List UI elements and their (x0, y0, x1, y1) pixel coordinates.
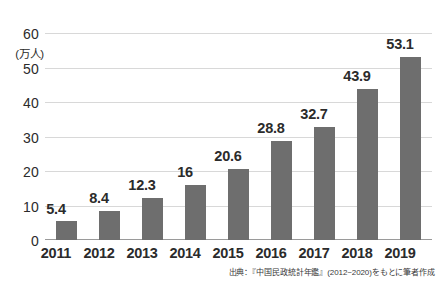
bar-2013 (142, 198, 163, 240)
bar-value-2018: 43.9 (329, 68, 385, 84)
y-tick-label-30: 30 (5, 130, 39, 146)
bar-2016 (271, 141, 292, 240)
bar-2019 (400, 57, 421, 240)
bar-2011 (56, 221, 77, 240)
bar-2017 (314, 127, 335, 240)
bar-2012 (99, 211, 120, 240)
bar-value-2016: 28.8 (243, 120, 299, 136)
gridline-60 (45, 33, 432, 34)
source-note: 出典：『中国民政統計年鑑』(2012~2020)をもとに筆者作成 (229, 266, 435, 277)
bar-value-2014: 16 (157, 164, 213, 180)
bar-2014 (185, 185, 206, 240)
bar-value-2015: 20.6 (200, 148, 256, 164)
y-tick-label-40: 40 (5, 95, 39, 111)
bar-value-2019: 53.1 (372, 36, 428, 52)
y-tick-label-50: 50 (5, 61, 39, 77)
y-axis-unit-label: (万人) (0, 45, 44, 61)
plot-area (45, 33, 432, 240)
bar-chart-figure: (万人) 60 50 40 30 20 10 0 5.4 8.4 12.3 16… (0, 0, 447, 292)
x-tick-label-2019: 2019 (372, 245, 428, 261)
bar-2018 (357, 89, 378, 241)
bar-value-2017: 32.7 (286, 106, 342, 122)
bar-2015 (228, 169, 249, 240)
y-tick-label-60: 60 (5, 26, 39, 42)
y-tick-label-20: 20 (5, 164, 39, 180)
